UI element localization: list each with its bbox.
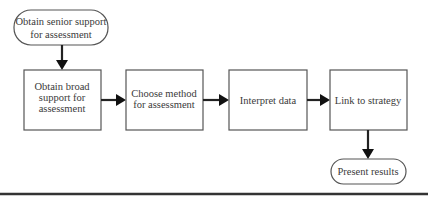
edge-interpret-link <box>307 94 330 106</box>
node-interpret-line-1: Interpret data <box>240 95 297 106</box>
node-interpret: Interpret data <box>229 70 307 130</box>
arrowhead-icon <box>320 94 330 106</box>
node-start-line-2: for assessment <box>30 29 92 40</box>
edge-link-present <box>362 130 374 159</box>
arrowhead-icon <box>56 60 68 70</box>
flowchart: Obtain senior support for assessment Obt… <box>0 0 429 202</box>
edge-broad-method <box>101 94 126 106</box>
node-link-line-1: Link to strategy <box>335 95 402 106</box>
node-broad: Obtain broad support for assessment <box>24 70 101 130</box>
arrowhead-icon <box>219 94 229 106</box>
node-present: Present results <box>331 159 406 184</box>
node-start-line-1: Obtain senior support <box>16 16 107 27</box>
node-method: Choose method for assessment <box>126 70 203 130</box>
edge-start-broad <box>56 45 68 70</box>
edge-method-interpret <box>203 94 229 106</box>
arrowhead-icon <box>362 149 374 159</box>
node-method-line-1: Choose method <box>131 88 197 99</box>
node-method-line-2: for assessment <box>133 99 195 110</box>
node-link: Link to strategy <box>330 70 407 130</box>
node-present-line-1: Present results <box>338 166 399 177</box>
arrowhead-icon <box>116 94 126 106</box>
node-broad-line-2: support for <box>39 92 86 103</box>
node-broad-line-1: Obtain broad <box>34 81 90 92</box>
node-broad-line-3: assessment <box>39 103 86 114</box>
node-start: Obtain senior support for assessment <box>14 10 108 45</box>
